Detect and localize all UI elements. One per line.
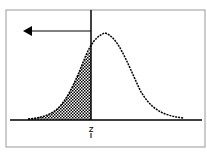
graph-screen: z bbox=[0, 0, 207, 152]
z-label: z bbox=[89, 124, 94, 134]
